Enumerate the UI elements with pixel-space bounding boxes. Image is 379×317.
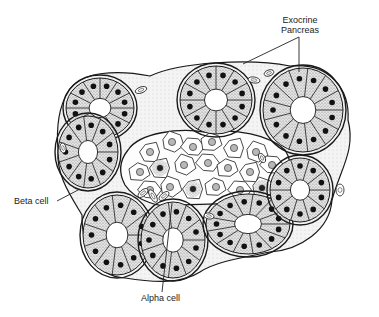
acinar-cell-nucleus bbox=[118, 203, 124, 209]
acinus-lumen bbox=[163, 228, 183, 252]
acinar-cell-nucleus bbox=[311, 137, 317, 143]
acinus bbox=[177, 63, 255, 137]
acinar-cell-nucleus bbox=[284, 207, 290, 213]
acinar-cell-nucleus bbox=[194, 79, 200, 85]
acinar-cell-nucleus bbox=[283, 81, 289, 87]
acinar-cell-nucleus bbox=[276, 180, 282, 186]
acinar-cell-nucleus bbox=[232, 115, 238, 121]
islet-cell-nucleus bbox=[146, 148, 153, 155]
acinar-cell-nucleus bbox=[284, 168, 290, 174]
acinar-cell-nucleus bbox=[89, 232, 95, 238]
acinar-cell-nucleus bbox=[115, 121, 121, 127]
alpha-cell-nucleus bbox=[190, 186, 196, 192]
acinus-lumen bbox=[89, 98, 111, 117]
acinar-cell-nucleus bbox=[214, 221, 220, 227]
islet-cell-nucleus bbox=[168, 138, 175, 145]
acinus-lumen bbox=[290, 97, 316, 124]
acinar-cell-nucleus bbox=[193, 245, 199, 251]
acinar-cell-nucleus bbox=[206, 73, 212, 79]
acinar-cell-nucleus bbox=[297, 211, 303, 217]
acinus bbox=[260, 65, 346, 155]
acinar-cell-nucleus bbox=[193, 229, 199, 235]
alpha-cell-nucleus bbox=[157, 165, 163, 171]
acinar-cell-nucleus bbox=[186, 216, 192, 222]
acinar-cell-nucleus bbox=[297, 76, 303, 82]
acinar-cell-nucleus bbox=[232, 79, 238, 85]
acinar-cell-nucleus bbox=[270, 107, 276, 113]
label-beta-cell: Beta cell bbox=[14, 196, 49, 206]
acinar-cell-nucleus bbox=[217, 211, 223, 217]
acinar-cell-nucleus bbox=[269, 236, 275, 242]
acinar-cell-nucleus bbox=[122, 111, 128, 117]
acinus-lumen bbox=[106, 222, 128, 248]
acinar-cell-nucleus bbox=[227, 240, 233, 246]
acinar-cell-nucleus bbox=[76, 125, 82, 131]
acinar-cell-nucleus bbox=[79, 89, 85, 95]
acinar-cell-nucleus bbox=[187, 104, 193, 110]
acinar-cell-nucleus bbox=[323, 86, 329, 92]
acinar-cell-nucleus bbox=[104, 260, 110, 266]
acinar-cell-nucleus bbox=[310, 168, 316, 174]
islet-cell-nucleus bbox=[189, 143, 196, 150]
acinar-cell-nucleus bbox=[329, 100, 335, 106]
label-alpha-cell: Alpha cell bbox=[141, 293, 180, 303]
alpha-cell-nucleus bbox=[259, 185, 265, 191]
acinar-cell-nucleus bbox=[256, 200, 262, 206]
acinar-cell-nucleus bbox=[241, 244, 247, 250]
acinar-cell-nucleus bbox=[311, 78, 317, 84]
acinar-cell-nucleus bbox=[329, 115, 335, 121]
acinar-cell-nucleus bbox=[150, 222, 156, 228]
acinar-cell-nucleus bbox=[276, 227, 282, 233]
acinar-cell-nucleus bbox=[319, 180, 325, 186]
acinar-cell-nucleus bbox=[241, 199, 247, 205]
acinar-cell-nucleus bbox=[73, 99, 79, 105]
acinar-cell-nucleus bbox=[274, 122, 280, 128]
acinar-cell-nucleus bbox=[220, 73, 226, 79]
islet-cell-nucleus bbox=[246, 168, 253, 175]
islet-cell-nucleus bbox=[136, 168, 143, 175]
acinar-cell-nucleus bbox=[104, 205, 110, 211]
acinar-cell-nucleus bbox=[276, 195, 282, 201]
acinus-lumen bbox=[78, 140, 97, 163]
red-blood-cell bbox=[336, 184, 344, 196]
acinar-cell-nucleus bbox=[100, 129, 106, 135]
acinar-cell-nucleus bbox=[122, 99, 128, 105]
label-exocrine-line2: Pancreas bbox=[276, 25, 324, 35]
islet-cell-nucleus bbox=[180, 161, 187, 168]
acinar-cell-nucleus bbox=[186, 259, 192, 265]
islet-cell-nucleus bbox=[224, 164, 231, 171]
acinar-cell-nucleus bbox=[107, 142, 113, 148]
exocrine-leader-a bbox=[243, 37, 299, 64]
acinar-cell-nucleus bbox=[323, 128, 329, 134]
acinar-cell-nucleus bbox=[131, 210, 137, 216]
acinar-cell-nucleus bbox=[150, 253, 156, 259]
acinar-cell-nucleus bbox=[274, 93, 280, 99]
acinar-cell-nucleus bbox=[194, 115, 200, 121]
acinar-cell-nucleus bbox=[146, 237, 152, 243]
acinar-cell-nucleus bbox=[91, 84, 97, 90]
islet-cell-nucleus bbox=[204, 159, 211, 166]
acinus-lumen bbox=[204, 89, 227, 111]
acinar-cell-nucleus bbox=[174, 209, 180, 215]
pancreas-illustration: Exocrine Pancreas Beta cell Alpha cell bbox=[0, 0, 379, 317]
acinar-cell-nucleus bbox=[283, 133, 289, 139]
acinus-lumen bbox=[290, 180, 309, 200]
acinar-cell-nucleus bbox=[256, 242, 262, 248]
label-exocrine-line1: Exocrine bbox=[276, 15, 324, 25]
acinar-cell-nucleus bbox=[88, 176, 94, 182]
acinus bbox=[267, 155, 333, 225]
acinar-cell-nucleus bbox=[118, 262, 124, 268]
acinar-cell-nucleus bbox=[76, 174, 82, 180]
acinus-lumen bbox=[235, 214, 262, 233]
acinar-cell-nucleus bbox=[220, 122, 226, 128]
islet-cell-nucleus bbox=[230, 144, 237, 151]
acinar-cell-nucleus bbox=[297, 139, 303, 145]
acinar-cell-nucleus bbox=[104, 84, 110, 90]
islet-of-langerhans bbox=[121, 131, 290, 207]
acinus bbox=[138, 199, 208, 281]
islet-cell-nucleus bbox=[212, 183, 219, 190]
acinar-cell-nucleus bbox=[66, 164, 72, 170]
acinar-cell-nucleus bbox=[88, 123, 94, 129]
acinar-cell-nucleus bbox=[115, 89, 121, 95]
acinar-cell-nucleus bbox=[239, 91, 245, 97]
